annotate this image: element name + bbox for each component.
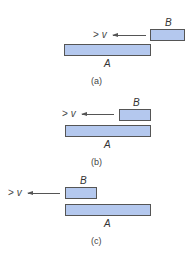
block-a [65, 204, 151, 216]
block-a [64, 44, 151, 56]
panel-caption: (b) [91, 158, 102, 167]
velocity-label: > v [8, 188, 22, 198]
block-b [150, 29, 185, 41]
left-arrow-icon [28, 193, 60, 194]
greater-than-symbol: > [8, 187, 14, 198]
panel-caption: (a) [91, 77, 102, 86]
left-arrow-icon [82, 114, 114, 115]
block-a-label: A [104, 219, 111, 229]
block-b [119, 109, 151, 121]
greater-than-symbol: > [62, 108, 68, 119]
block-a-label: A [104, 59, 111, 69]
block-b-label: B [80, 176, 87, 186]
velocity-label: > v [62, 109, 76, 119]
left-arrow-icon [113, 35, 146, 36]
velocity-variable: v [102, 29, 107, 40]
velocity-label: > v [93, 30, 107, 40]
panel-caption: (c) [91, 237, 102, 246]
block-a [65, 125, 151, 137]
block-a-label: A [104, 140, 111, 150]
block-b-label: B [133, 98, 140, 108]
greater-than-symbol: > [93, 29, 99, 40]
block-b [65, 187, 97, 199]
block-b-label: B [165, 18, 172, 28]
velocity-variable: v [17, 187, 22, 198]
velocity-variable: v [71, 108, 76, 119]
